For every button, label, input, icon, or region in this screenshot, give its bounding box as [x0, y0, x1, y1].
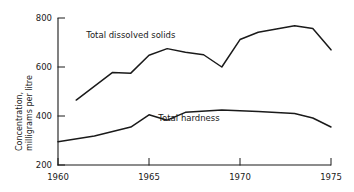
y-axis-ticks: 200400600800	[36, 13, 65, 170]
y-tick-label: 400	[36, 111, 52, 121]
series-label-1: Total hardness	[157, 113, 220, 123]
y-tick-label: 800	[36, 13, 52, 23]
x-tick-label: 1960	[47, 172, 69, 182]
x-axis-ticks: 1960196519701975	[47, 158, 342, 182]
x-tick-label: 1970	[229, 172, 251, 182]
data-series-group	[58, 26, 331, 142]
y-tick-label: 200	[36, 160, 52, 170]
line-chart-plot: 200400600800 1960196519701975 Total diss…	[0, 0, 354, 192]
y-axis-title: Concentration, milligrams per litre	[14, 36, 38, 146]
series-annotations: Total dissolved solidsTotal hardness	[85, 30, 220, 123]
y-tick-label: 600	[36, 62, 52, 72]
series-label-0: Total dissolved solids	[85, 30, 176, 40]
y-axis-title-line-1: Concentration,	[15, 92, 24, 151]
chart-figure: Concentration, milligrams per litre 2004…	[0, 0, 354, 192]
x-tick-label: 1965	[138, 172, 160, 182]
y-axis-title-line-2: milligrams per litre	[25, 75, 34, 151]
x-tick-label: 1975	[320, 172, 342, 182]
